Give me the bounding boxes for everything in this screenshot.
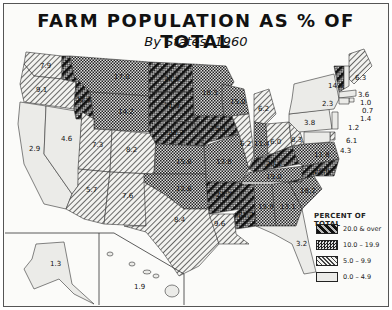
state-NY <box>289 74 339 114</box>
svg-text:15.9: 15.9 <box>258 203 274 211</box>
svg-text:20.1: 20.1 <box>266 160 282 168</box>
svg-text:3.6: 3.6 <box>358 91 370 99</box>
svg-text:6.3: 6.3 <box>355 74 366 82</box>
svg-text:9.6: 9.6 <box>214 220 226 228</box>
svg-text:0.7: 0.7 <box>362 107 373 115</box>
svg-text:32.8: 32.8 <box>164 75 180 83</box>
svg-text:25.5: 25.5 <box>210 125 226 133</box>
svg-text:18.2: 18.2 <box>300 187 316 195</box>
svg-text:11.4: 11.4 <box>254 140 270 148</box>
svg-text:7.9: 7.9 <box>40 62 51 70</box>
svg-text:18.3: 18.3 <box>202 89 218 97</box>
svg-text:1.0: 1.0 <box>360 99 371 107</box>
legend-swatch-checker <box>316 240 338 250</box>
state-MD <box>304 132 330 144</box>
svg-text:2.3: 2.3 <box>322 100 333 108</box>
svg-text:21.2: 21.2 <box>238 211 254 219</box>
svg-text:6.2: 6.2 <box>240 140 251 148</box>
svg-text:23.3: 23.3 <box>168 129 184 137</box>
svg-text:9.1: 9.1 <box>36 86 47 94</box>
svg-text:1.4: 1.4 <box>360 115 372 123</box>
svg-text:14.2: 14.2 <box>118 108 134 116</box>
svg-text:15.0: 15.0 <box>230 98 246 106</box>
svg-text:12.6: 12.6 <box>176 185 192 193</box>
svg-text:6.0: 6.0 <box>270 138 281 146</box>
svg-text:3.8: 3.8 <box>304 119 315 127</box>
svg-text:17.0: 17.0 <box>114 73 130 81</box>
legend-item-10-19: 10.0 – 19.9 <box>316 239 379 250</box>
svg-text:1.3: 1.3 <box>50 260 61 268</box>
svg-text:7.3: 7.3 <box>92 141 103 149</box>
svg-text:2.9: 2.9 <box>29 145 40 153</box>
svg-text:4.3: 4.3 <box>340 147 351 155</box>
map-figure: FARM POPULATION AS % OF TOTAL By States,… <box>3 3 389 307</box>
svg-text:3.2: 3.2 <box>296 240 307 248</box>
svg-text:23.2: 23.2 <box>216 191 232 199</box>
state-AK <box>24 242 94 304</box>
legend-item-5-9: 5.0 – 9.9 <box>316 255 371 266</box>
svg-text:22.1: 22.1 <box>76 96 92 104</box>
legend-swatch-heavy <box>316 224 338 234</box>
svg-text:11.8: 11.8 <box>314 151 330 159</box>
legend-swatch-light <box>316 272 338 282</box>
svg-text:15.6: 15.6 <box>176 158 192 166</box>
svg-text:19.0: 19.0 <box>266 173 282 181</box>
svg-text:8.2: 8.2 <box>126 146 137 154</box>
svg-text:13.8: 13.8 <box>216 158 232 166</box>
svg-text:6.2: 6.2 <box>258 105 269 113</box>
svg-text:4.6: 4.6 <box>61 135 73 143</box>
svg-text:1.9: 1.9 <box>134 283 145 291</box>
state-RI <box>349 98 354 102</box>
svg-text:7.6: 7.6 <box>122 192 134 200</box>
svg-text:8.4: 8.4 <box>174 216 186 224</box>
svg-text:13.1: 13.1 <box>280 203 296 211</box>
svg-text:31.9: 31.9 <box>164 102 180 110</box>
svg-text:1.2: 1.2 <box>348 124 359 132</box>
svg-text:14.4: 14.4 <box>328 82 344 90</box>
svg-text:6.1: 6.1 <box>346 137 357 145</box>
state-CT <box>339 98 349 104</box>
legend-item-20-plus: 20.0 & over <box>316 223 381 234</box>
state-DE <box>330 132 335 140</box>
state-NJ <box>332 112 338 129</box>
legend-swatch-diag <box>316 256 338 266</box>
svg-text:20.9: 20.9 <box>314 168 330 176</box>
svg-text:8.3: 8.3 <box>291 136 302 144</box>
svg-text:5.7: 5.7 <box>86 186 97 194</box>
state-NH <box>344 66 349 89</box>
state-MA <box>339 90 356 98</box>
legend-item-0-4: 0.0 – 4.9 <box>316 271 371 282</box>
